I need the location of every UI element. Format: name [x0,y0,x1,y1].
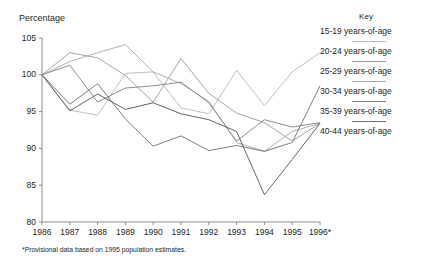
y-tick-label: 90 [14,144,36,153]
legend-swatch-3 [352,76,386,86]
x-tick-label: 1993 [223,228,251,237]
legend-item-4[interactable]: 30-34 years-of-age [318,86,420,96]
legend-item-3[interactable]: 25-29 years-of-age [318,66,420,76]
x-tick-label: 1988 [84,228,112,237]
series-line-4 [42,65,320,141]
y-tick-label: 95 [14,107,36,116]
legend-swatch-4 [352,96,386,106]
y-tick-label: 80 [14,218,36,227]
x-tick-label: 1994 [250,228,278,237]
x-tick-label: 1990 [139,228,167,237]
x-tick-label: 1986 [28,228,56,237]
legend-title: Key [318,12,420,22]
x-tick-label: 1989 [111,228,139,237]
legend-line-sample [352,41,386,42]
legend-item-2[interactable]: 20-24 years-of-age [318,46,420,56]
series-line-2 [42,53,320,141]
legend-item-5[interactable]: 35-39 years-of-age [318,106,420,116]
x-tick-label: 1996* [306,228,334,237]
legend-swatch-5 [352,116,386,126]
legend-line-sample [352,61,386,62]
y-tick-label: 100 [14,70,36,79]
legend-line-sample [352,101,386,102]
legend-swatch-2 [352,56,386,66]
y-tick-label: 105 [14,34,36,43]
x-tick-label: 1987 [56,228,84,237]
legend-item-6[interactable]: 40-44 years-of-age [318,126,420,136]
x-tick-label: 1992 [195,228,223,237]
legend-line-sample [352,121,386,122]
legend-item-1[interactable]: 15-19 years-of-age [318,26,420,36]
x-tick-label: 1995 [278,228,306,237]
chart-page: Percentage 10510095908580 19861987198819… [0,0,422,266]
x-tick-label: 1991 [167,228,195,237]
legend-line-sample [352,81,386,82]
series-line-6 [42,75,320,195]
chart-footnote: *Provisional data based on 1995 populati… [22,246,186,254]
legend-swatch-1 [352,36,386,46]
y-tick-label: 85 [14,181,36,190]
chart-legend: Key 15-19 years-of-age20-24 years-of-age… [318,12,420,136]
series-line-3 [42,45,320,152]
